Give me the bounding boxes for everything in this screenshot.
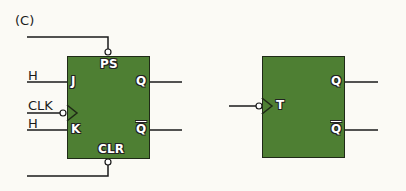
t-clock-triangle-layer [0,0,406,191]
t-q-pin-label: Q [331,74,341,88]
t-pin-label: T [276,98,284,112]
t-clock-edge-triangle-icon [262,98,272,114]
t-qbar-pin-label: Q [331,122,341,136]
